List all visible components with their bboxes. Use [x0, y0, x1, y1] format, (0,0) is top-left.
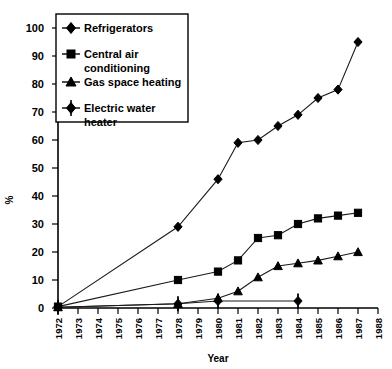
x-tick-label: 1979: [193, 318, 204, 339]
square-marker-icon: [354, 209, 361, 216]
diamond-marker-icon: [274, 121, 282, 130]
legend-label: Refrigerators: [84, 22, 153, 34]
x-tick-label: 1974: [93, 317, 104, 339]
diamond-marker-icon: [234, 138, 242, 147]
x-tick-label: 1987: [353, 318, 364, 339]
cross-diamond-marker-icon: [54, 300, 62, 315]
legend-label: Gas space heating: [84, 76, 181, 88]
y-tick-label: 90: [32, 50, 44, 62]
y-tick-label: 10: [32, 274, 44, 286]
y-tick-label: 70: [32, 106, 44, 118]
square-marker-icon: [334, 212, 341, 219]
triangle-marker-icon: [254, 273, 263, 281]
x-tick-label: 1985: [313, 317, 324, 339]
square-marker-icon: [174, 276, 181, 283]
line-chart: % 0 10 20 30 40 50 60 70 80 90 100: [0, 0, 392, 369]
square-marker-icon: [234, 257, 241, 264]
legend-label: heater: [84, 116, 118, 128]
x-tick-label: 1977: [153, 318, 164, 339]
y-axis-title: %: [4, 195, 15, 204]
x-axis-tick-labels: 1972 1973 1974 1975 1976 1977 1978 1979 …: [53, 317, 384, 339]
x-tick-label: 1984: [293, 317, 304, 339]
y-tick-label: 60: [32, 134, 44, 146]
legend-label: Central air: [84, 48, 139, 60]
legend-label: conditioning: [84, 62, 150, 74]
cross-diamond-marker-icon: [174, 296, 182, 311]
x-tick-label: 1983: [273, 318, 284, 339]
x-tick-label: 1976: [133, 318, 144, 339]
x-tick-label: 1981: [233, 317, 244, 339]
cross-diamond-marker-icon: [214, 294, 222, 309]
square-marker-icon: [274, 232, 281, 239]
x-tick-label: 1982: [253, 318, 264, 339]
diamond-marker-icon: [254, 135, 262, 144]
cross-diamond-marker-icon: [294, 294, 302, 309]
y-tick-label: 20: [32, 246, 44, 258]
square-marker-icon: [314, 215, 321, 222]
chart-legend: Refrigerators Central air conditioning G…: [56, 14, 188, 128]
chart-container: % 0 10 20 30 40 50 60 70 80 90 100: [0, 0, 392, 369]
diamond-marker-icon: [294, 110, 302, 119]
x-tick-label: 1988: [373, 318, 384, 339]
y-tick-label: 30: [32, 218, 44, 230]
x-tick-label: 1978: [173, 318, 184, 339]
x-tick-label: 1973: [73, 318, 84, 339]
legend-label: Electric water: [84, 102, 156, 114]
y-tick-label: 0: [38, 302, 44, 314]
x-tick-label: 1980: [213, 318, 224, 339]
y-tick-label: 80: [32, 78, 44, 90]
x-tick-label: 1986: [333, 318, 344, 339]
square-marker-icon: [214, 268, 221, 275]
x-axis-ticks: [58, 308, 378, 314]
square-marker-icon: [294, 220, 301, 227]
square-marker-icon: [254, 234, 261, 241]
triangle-marker-icon: [354, 248, 363, 256]
x-axis-title: Year: [207, 353, 228, 364]
diamond-marker-icon: [354, 37, 362, 46]
y-tick-label: 50: [32, 162, 44, 174]
y-tick-label: 40: [32, 190, 44, 202]
square-marker-icon: [67, 50, 75, 58]
triangle-marker-icon: [234, 287, 243, 295]
diamond-marker-icon: [314, 93, 322, 102]
y-axis-tick-labels: 0 10 20 30 40 50 60 70 80 90 100: [26, 22, 44, 314]
x-tick-label: 1972: [53, 318, 64, 339]
diamond-marker-icon: [334, 85, 342, 94]
x-tick-label: 1975: [113, 317, 124, 339]
y-tick-label: 100: [26, 22, 44, 34]
